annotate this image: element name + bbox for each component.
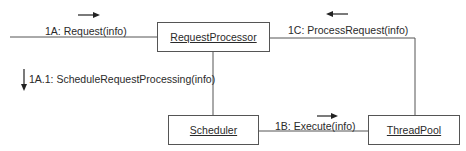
object-threadpool[interactable]: ThreadPool [368, 115, 460, 145]
arrow-right-icon [78, 12, 100, 18]
object-name: Scheduler [190, 124, 237, 136]
arrow-right-icon [317, 113, 338, 119]
object-name: RequestProcessor [170, 31, 256, 43]
arrow-left-icon [326, 11, 348, 17]
object-requestprocessor[interactable]: RequestProcessor [157, 22, 270, 52]
object-scheduler[interactable]: Scheduler [168, 115, 259, 145]
link-requestprocessor-to-threadpool [270, 38, 415, 115]
message-1c-label: 1C: ProcessRequest(info) [288, 24, 408, 36]
arrow-down-icon [21, 69, 27, 91]
message-1a-label: 1A: Request(info) [45, 25, 127, 37]
object-name: ThreadPool [387, 124, 441, 136]
message-1b-label: 1B: Execute(info) [275, 120, 356, 132]
message-1a1-label: 1A.1: ScheduleRequestProcessing(info) [29, 73, 215, 85]
